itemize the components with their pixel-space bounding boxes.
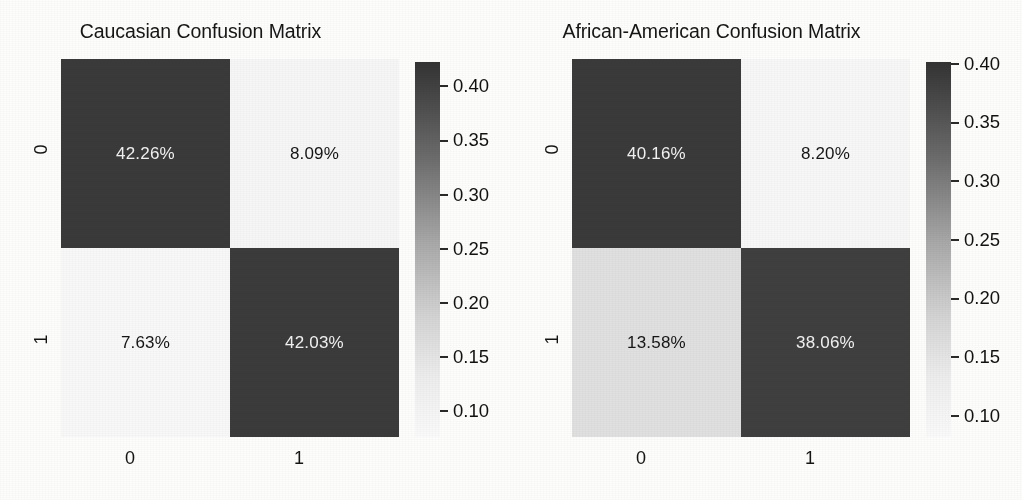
colorbar-tick-mark-icon — [951, 63, 959, 65]
colorbar-tick-label: 0.35 — [453, 131, 489, 150]
heatmap-grid-caucasian: 42.26% 8.09% 7.63% 42.03% — [61, 59, 399, 437]
heatmap-cell-label: 42.03% — [285, 333, 344, 353]
heatmap-grid-african-american: 40.16% 8.20% 13.58% 38.06% — [572, 59, 910, 437]
colorbar-tick-mark-icon — [440, 410, 448, 412]
colorbar-tick-mark-icon — [440, 302, 448, 304]
colorbar-tick-label: 0.15 — [453, 348, 489, 367]
colorbar-tick-label: 0.25 — [964, 231, 1000, 250]
heatmap-cell-label: 42.26% — [116, 144, 175, 164]
colorbar-tick-label: 0.15 — [964, 348, 1000, 367]
heatmap-cell-0-1: 8.20% — [741, 59, 910, 248]
heatmap-cell-label: 40.16% — [627, 144, 686, 164]
colorbar-tick-label: 0.20 — [453, 294, 489, 313]
colorbar-tick-mark-icon — [951, 415, 959, 417]
heatmap-cell-label: 7.63% — [121, 333, 170, 353]
y-axis-tick-label-1: 1 — [542, 329, 563, 351]
heatmap-cell-1-1: 38.06% — [741, 248, 910, 437]
y-axis-tick-label-0: 0 — [542, 139, 563, 161]
colorbar-tick-mark-icon — [951, 239, 959, 241]
heatmap-cell-label: 8.09% — [290, 144, 339, 164]
colorbar-tick-mark-icon — [440, 85, 448, 87]
colorbar-tick-label: 0.25 — [453, 240, 489, 259]
colorbar-tick-label: 0.30 — [453, 186, 489, 205]
confusion-matrix-panel-caucasian: Caucasian Confusion Matrix 42.26% 8.09% … — [0, 0, 511, 500]
x-axis-tick-label-0: 0 — [611, 448, 671, 469]
colorbar-tick-label: 0.30 — [964, 172, 1000, 191]
colorbar-tick-label: 0.10 — [453, 402, 489, 421]
heatmap-cell-0-0: 40.16% — [572, 59, 741, 248]
heatmap-cell-1-0: 13.58% — [572, 248, 741, 437]
heatmap-cell-0-0: 42.26% — [61, 59, 230, 248]
colorbar-tick-mark-icon — [951, 180, 959, 182]
heatmap-cell-0-1: 8.09% — [230, 59, 399, 248]
colorbar-tick-mark-icon — [951, 356, 959, 358]
colorbar-tick-label: 0.35 — [964, 113, 1000, 132]
heatmap-cell-1-0: 7.63% — [61, 248, 230, 437]
colorbar-tick-label: 0.20 — [964, 289, 1000, 308]
colorbar-tick-mark-icon — [951, 122, 959, 124]
confusion-matrix-panel-african-american: African-American Confusion Matrix 40.16%… — [511, 0, 1022, 500]
x-axis-tick-label-1: 1 — [780, 448, 840, 469]
heatmap-cell-label: 13.58% — [627, 333, 686, 353]
x-axis-tick-label-0: 0 — [100, 448, 160, 469]
colorbar-tick-label: 0.40 — [453, 77, 489, 96]
x-axis-tick-label-1: 1 — [269, 448, 329, 469]
colorbar-tick-mark-icon — [951, 298, 959, 300]
colorbar-tick-group-african-american: 0.400.350.300.250.200.150.10 — [926, 62, 1022, 437]
colorbar-tick-label: 0.10 — [964, 407, 1000, 426]
heatmap-cell-label: 8.20% — [801, 144, 850, 164]
y-axis-tick-label-0: 0 — [31, 139, 52, 161]
colorbar-tick-mark-icon — [440, 356, 448, 358]
colorbar-tick-mark-icon — [440, 248, 448, 250]
colorbar-tick-mark-icon — [440, 194, 448, 196]
heatmap-cell-label: 38.06% — [796, 333, 855, 353]
chart-title-african-american: African-American Confusion Matrix — [456, 20, 967, 43]
colorbar-tick-label: 0.40 — [964, 55, 1000, 74]
y-axis-tick-label-1: 1 — [31, 329, 52, 351]
colorbar-tick-group-caucasian: 0.400.350.300.250.200.150.10 — [415, 62, 511, 437]
colorbar-tick-mark-icon — [440, 140, 448, 142]
heatmap-cell-1-1: 42.03% — [230, 248, 399, 437]
chart-title-caucasian: Caucasian Confusion Matrix — [0, 20, 456, 43]
